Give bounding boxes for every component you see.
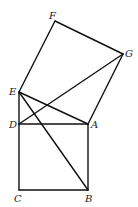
label-B: B	[84, 193, 92, 204]
geometry-diagram: F G E D A C B	[0, 0, 138, 207]
label-G: G	[125, 48, 133, 59]
segment-AE	[19, 92, 88, 124]
label-C: C	[14, 193, 22, 204]
label-D: D	[8, 119, 17, 130]
segment-DG	[19, 54, 123, 124]
segment-GA	[88, 54, 123, 124]
label-A: A	[90, 119, 98, 130]
label-E: E	[8, 86, 17, 97]
segment-EF	[19, 21, 55, 92]
label-F: F	[48, 10, 57, 21]
segment-FG	[55, 21, 123, 54]
segment-EB	[19, 92, 88, 190]
